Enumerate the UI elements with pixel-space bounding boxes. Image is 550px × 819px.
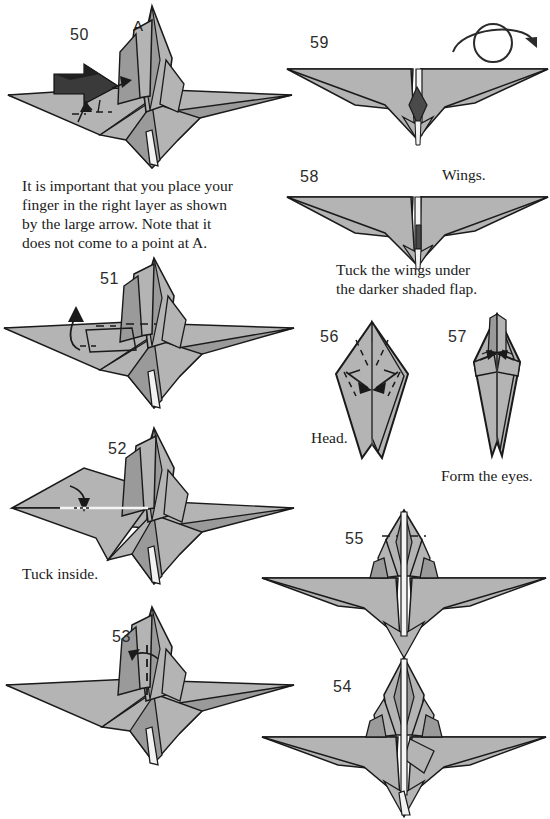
step-number-57: 57	[448, 328, 467, 346]
step-number-50: 50	[70, 26, 89, 44]
step-number-59: 59	[310, 34, 329, 52]
caption-line: Head.	[311, 428, 348, 447]
caption-step-58: Tuck the wings under the darker shaded f…	[336, 260, 477, 298]
step-number-53: 53	[112, 628, 131, 646]
step-number-52: 52	[108, 440, 127, 458]
caption-line: It is important that you place your	[22, 176, 233, 195]
step-number-51: 51	[100, 270, 119, 288]
figure-step-58	[285, 187, 550, 269]
caption-step-52: Tuck inside.	[22, 564, 98, 583]
figure-step-57	[462, 310, 532, 465]
step-number-55: 55	[345, 530, 364, 548]
caption-line: finger in the right layer as shown	[22, 195, 233, 214]
caption-line: Tuck inside.	[22, 564, 98, 583]
figure-step-54	[258, 655, 550, 819]
figure-step-53	[0, 605, 300, 780]
figure-step-59	[285, 55, 550, 145]
caption-line: the darker shaded flap.	[336, 279, 477, 298]
caption-line: by the large arrow. Note that it	[22, 214, 233, 233]
step-number-56: 56	[320, 328, 339, 346]
caption-step-57: Form the eyes.	[441, 466, 533, 485]
point-label-a: A	[133, 17, 143, 34]
figure-step-51	[0, 258, 300, 428]
step-number-58: 58	[300, 168, 319, 186]
step-number-54: 54	[333, 678, 352, 696]
caption-step-56: Head.	[311, 428, 348, 447]
origami-instruction-page: 50 A It is important that you place your…	[0, 0, 550, 819]
rotate-over-icon	[447, 18, 542, 66]
figure-step-50	[0, 0, 300, 165]
caption-line: Form the eyes.	[441, 466, 533, 485]
label-wings: Wings.	[442, 166, 486, 184]
caption-line: Tuck the wings under	[336, 260, 477, 279]
caption-line: does not come to a point at A.	[22, 233, 233, 252]
caption-step-50: It is important that you place your fing…	[22, 176, 233, 252]
figure-step-55	[258, 510, 550, 660]
